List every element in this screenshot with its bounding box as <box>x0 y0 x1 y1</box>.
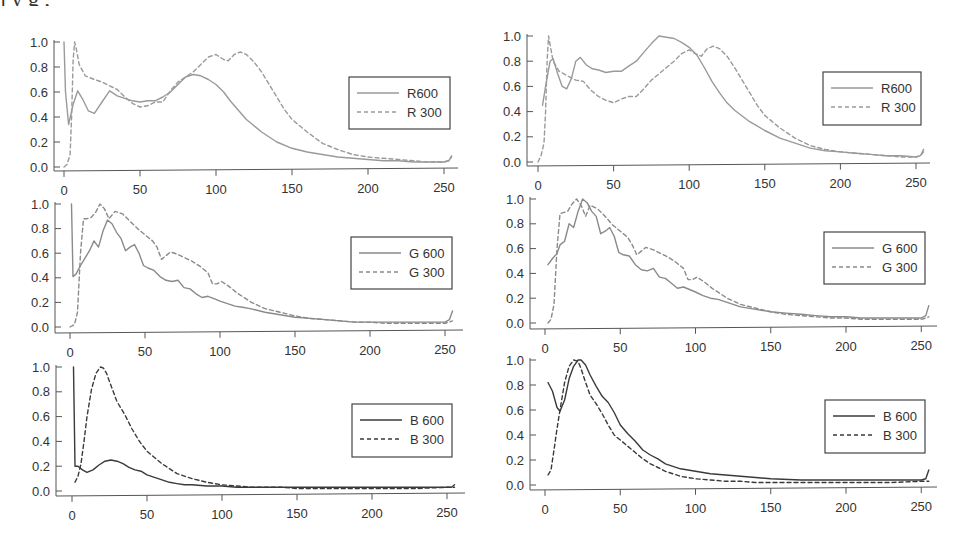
chart-panel-b-right: 0.00.20.40.60.81.0050100150200250B 600B … <box>0 0 965 547</box>
legend: B 600B 300 <box>825 400 925 453</box>
legend-label: B 600 <box>883 409 917 424</box>
x-tick-label: 100 <box>685 501 707 516</box>
y-tick-label: 0.8 <box>506 378 524 393</box>
legend-label: B 300 <box>883 428 917 443</box>
x-tick-label: 50 <box>613 501 627 516</box>
y-tick-label: 0.4 <box>506 428 524 443</box>
y-tick-label: 1.0 <box>506 353 524 368</box>
x-tick-label: 150 <box>760 500 782 515</box>
x-tick-label: 200 <box>835 500 857 515</box>
y-tick-label: 0.2 <box>506 453 524 468</box>
x-tick-label: 0 <box>541 502 548 517</box>
legend-box <box>825 400 925 453</box>
x-axis-line <box>530 487 937 490</box>
y-tick-label: 0.6 <box>506 403 524 418</box>
x-tick-label: 250 <box>910 499 932 514</box>
y-tick-label: 0.0 <box>506 478 524 493</box>
